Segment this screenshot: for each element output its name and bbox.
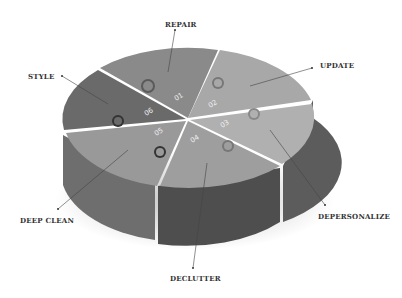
label-style: STYLE	[28, 72, 55, 81]
label-declutter: DECLUTTER	[170, 274, 221, 283]
pie-graphic: 01 02 03 04 05 06	[0, 0, 402, 298]
label-repair: REPAIR	[165, 20, 197, 29]
label-depersonalize: DEPERSONALIZE	[318, 212, 390, 221]
label-deep-clean: DEEP CLEAN	[20, 216, 74, 225]
label-update: UPDATE	[320, 61, 354, 70]
puzzle-pie-diagram: 01 02 03 04 05 06 REPAIR UPDATE DEPERSON…	[0, 0, 402, 298]
